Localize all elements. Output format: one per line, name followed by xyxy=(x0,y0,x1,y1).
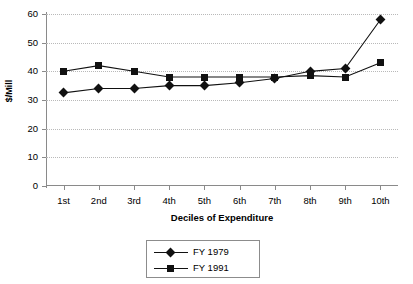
x-tick-label: 9th xyxy=(325,196,365,206)
x-tick-label: 4th xyxy=(149,196,189,206)
legend-item: FY 1979 xyxy=(147,244,259,260)
legend-label: FY 1979 xyxy=(188,247,229,257)
x-tick-label: 10th xyxy=(360,196,400,206)
legend-marker xyxy=(167,265,174,272)
x-tick xyxy=(64,186,65,190)
x-tick-label: 2nd xyxy=(79,196,119,206)
chart-figure: $/Mill 0102030405060 1st2nd3rd4th5th6th7… xyxy=(0,0,413,284)
y-tick-label: 0 xyxy=(10,181,38,191)
y-tick xyxy=(42,186,46,187)
y-tick-label: 40 xyxy=(10,66,38,76)
x-tick xyxy=(204,186,205,190)
y-tick-label: 10 xyxy=(10,152,38,162)
legend-item: FY 1991 xyxy=(147,260,259,276)
x-tick-label: 3rd xyxy=(114,196,154,206)
legend-marker xyxy=(166,247,176,257)
legend-swatch xyxy=(154,262,188,274)
x-tick xyxy=(275,186,276,190)
y-tick-label: 50 xyxy=(10,38,38,48)
x-tick xyxy=(134,186,135,190)
x-axis-title: Deciles of Expenditure xyxy=(46,212,398,223)
y-tick-label: 20 xyxy=(10,124,38,134)
y-tick-label: 30 xyxy=(10,95,38,105)
y-tick-label: 60 xyxy=(10,9,38,19)
series-line xyxy=(64,20,381,93)
x-tick-label: 6th xyxy=(220,196,260,206)
x-tick-label: 1st xyxy=(44,196,84,206)
legend-label: FY 1991 xyxy=(188,263,229,273)
x-tick xyxy=(99,186,100,190)
x-tick xyxy=(169,186,170,190)
x-tick-label: 5th xyxy=(184,196,224,206)
chart-legend: FY 1979FY 1991 xyxy=(146,240,260,278)
x-tick xyxy=(345,186,346,190)
series-lines xyxy=(46,14,398,186)
plot-area: 0102030405060 1st2nd3rd4th5th6th7th8th9t… xyxy=(46,14,398,186)
x-tick xyxy=(310,186,311,190)
x-tick-label: 7th xyxy=(255,196,295,206)
x-tick-label: 8th xyxy=(290,196,330,206)
x-tick xyxy=(380,186,381,190)
x-tick xyxy=(240,186,241,190)
legend-swatch xyxy=(154,246,188,258)
